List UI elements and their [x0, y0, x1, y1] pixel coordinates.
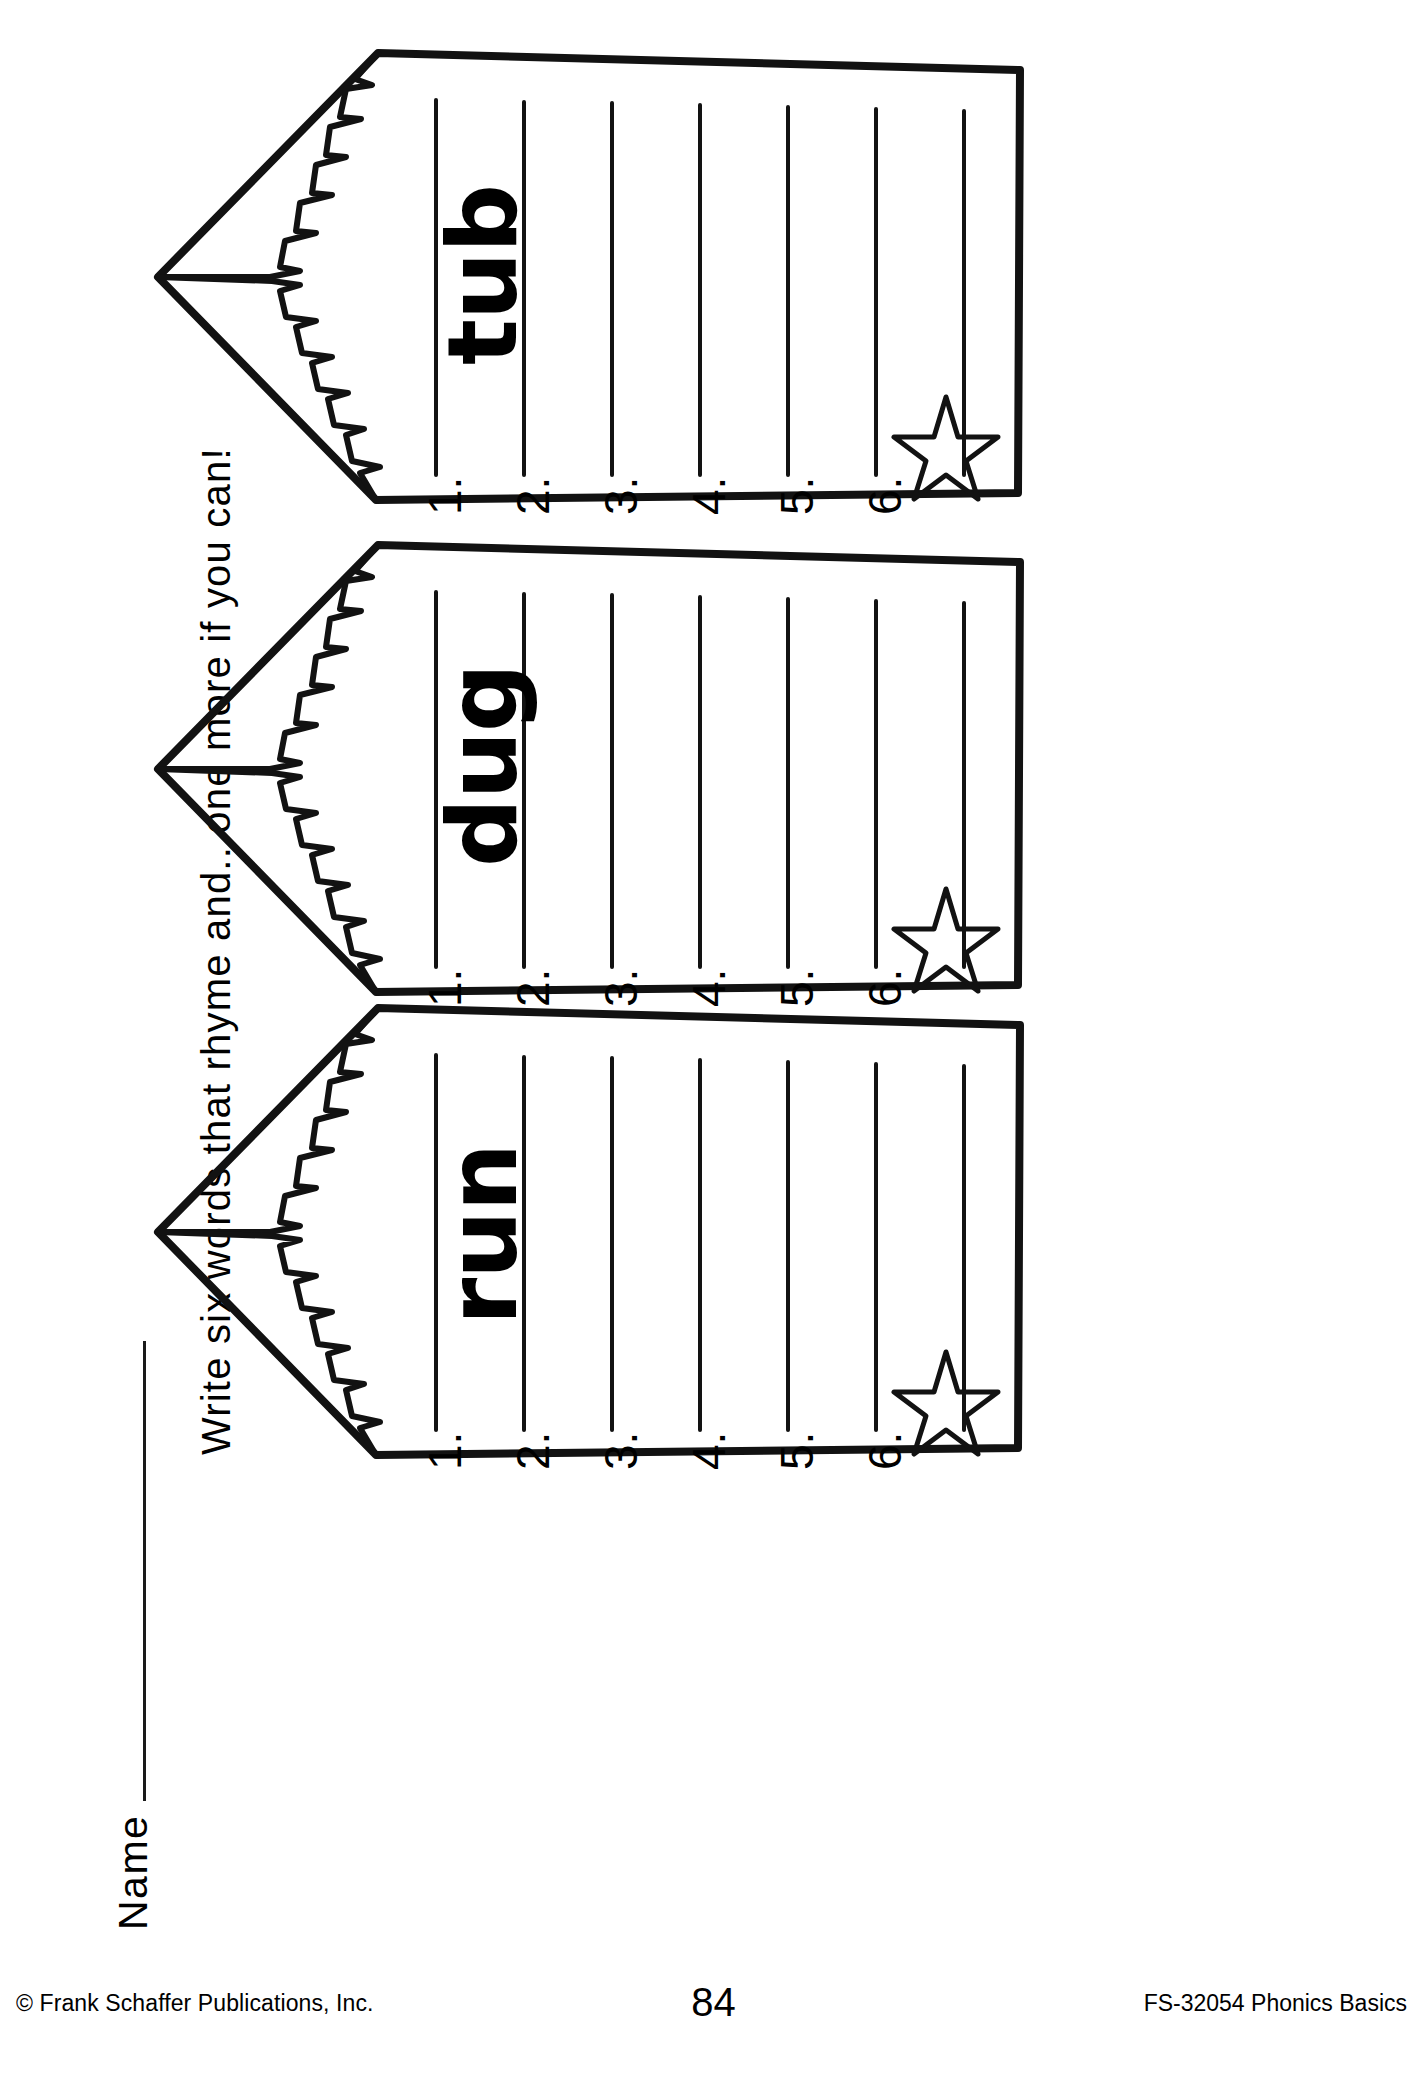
line-number: 2. [510, 477, 556, 515]
product-code-text: FS-32054 Phonics Basics [1144, 1990, 1407, 2017]
line-number: 4. [686, 1432, 732, 1470]
pennant-word-tub: tub [435, 185, 531, 365]
line-number: 1. [422, 477, 468, 515]
line-number: 2. [510, 1432, 556, 1470]
line-number: 5. [774, 1432, 820, 1470]
worksheet-page: Name Write six words that rhyme and...on… [0, 0, 1427, 2077]
line-number: 6. [862, 477, 908, 515]
line-number: 3. [598, 477, 644, 515]
pennant-shape-tub [140, 45, 1040, 515]
line-number: 4. [686, 477, 732, 515]
pennant-word-run: run [435, 1144, 531, 1325]
line-number: 5. [774, 477, 820, 515]
pennant-shape-dug [140, 537, 1040, 1007]
line-number: 6. [862, 1432, 908, 1470]
line-number: 3. [598, 1432, 644, 1470]
page-footer: © Frank Schaffer Publications, Inc. 84 F… [0, 1990, 1427, 2040]
pennant-tub: tub 1. 2. 3. 4. 5. 6. [140, 45, 1040, 515]
line-number: 1. [422, 1432, 468, 1470]
pennant-run: run 1. 2. 3. 4. 5. 6. [140, 1000, 1040, 1470]
pennant-shape-run [140, 1000, 1040, 1470]
name-label: Name [113, 1815, 156, 1930]
pennant-word-dug: dug [435, 664, 531, 867]
pennant-dug: dug 1. 2. 3. 4. 5. 6. [140, 537, 1040, 1007]
